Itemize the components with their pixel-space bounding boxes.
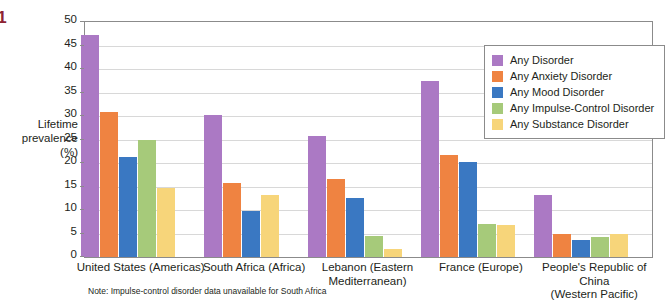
legend-item-label: Any Disorder <box>510 54 574 66</box>
bar <box>384 249 402 257</box>
bar <box>223 183 241 257</box>
bar <box>308 136 326 257</box>
bar <box>261 195 279 258</box>
legend-swatch-icon <box>492 71 503 82</box>
y-axis-title-line-1: Lifetime <box>0 117 78 131</box>
legend-swatch-icon <box>492 55 503 66</box>
legend-item[interactable]: Any Mood Disorder <box>492 84 654 100</box>
bar <box>100 112 118 257</box>
bar <box>610 234 628 257</box>
bar <box>591 237 609 257</box>
bar <box>497 225 515 257</box>
y-axis-title-line-3: (%) <box>0 145 78 159</box>
bar <box>138 140 156 258</box>
chart-legend: Any DisorderAny Anxiety DisorderAny Mood… <box>484 45 665 139</box>
x-axis-label-line: People's Republic of China <box>526 261 663 288</box>
bar <box>242 211 260 257</box>
legend-swatch-icon <box>492 103 503 114</box>
legend-item-label: Any Anxiety Disorder <box>510 70 612 82</box>
legend-item[interactable]: Any Substance Disorder <box>492 116 654 132</box>
figure-number: .1 <box>0 8 7 28</box>
bar <box>534 195 552 257</box>
y-axis-tick-label: 40 <box>51 60 77 72</box>
y-axis-tick-label: 10 <box>51 201 77 213</box>
bar <box>572 240 590 257</box>
bar <box>440 155 458 257</box>
y-axis-tick-label: 45 <box>51 37 77 49</box>
legend-item-label: Any Mood Disorder <box>510 86 604 98</box>
bar <box>459 162 477 257</box>
bar <box>157 188 175 257</box>
legend-item-label: Any Substance Disorder <box>510 118 629 130</box>
y-axis-tick-label: 50 <box>51 13 77 25</box>
y-axis-title: Lifetime prevalence (%) <box>0 117 78 159</box>
y-axis-tick-label: 35 <box>51 84 77 96</box>
bar <box>478 224 496 257</box>
legend-item[interactable]: Any Disorder <box>492 52 654 68</box>
legend-item[interactable]: Any Anxiety Disorder <box>492 68 654 84</box>
bar <box>119 157 137 257</box>
legend-swatch-icon <box>492 119 503 130</box>
x-axis-label: People's Republic of China(Western Pacif… <box>526 261 663 302</box>
y-axis-tick-label: 5 <box>51 225 77 237</box>
bar <box>327 179 345 257</box>
chart-footnote: Note: Impulse-control disorder data unav… <box>88 286 327 296</box>
bar <box>553 234 571 257</box>
bar <box>346 198 364 257</box>
x-axis-label-line: (Western Pacific) <box>526 288 663 302</box>
legend-swatch-icon <box>492 87 503 98</box>
y-axis-title-line-2: prevalence <box>0 131 78 145</box>
legend-item[interactable]: Any Impulse-Control Disorder <box>492 100 654 116</box>
y-axis-tick-label: 15 <box>51 178 77 190</box>
bar <box>421 81 439 257</box>
legend-item-label: Any Impulse-Control Disorder <box>510 102 654 114</box>
y-axis-tick-label: 0 <box>51 248 77 260</box>
bar <box>365 236 383 257</box>
bar <box>204 115 222 257</box>
bar <box>81 35 99 257</box>
